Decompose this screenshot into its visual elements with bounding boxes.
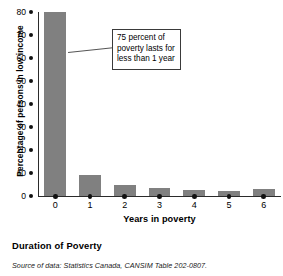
figure-container: Percentage of persons in low income 8070…	[0, 0, 283, 276]
y-tick-dot-icon	[29, 125, 33, 129]
x-tick-dot-icon	[122, 194, 127, 199]
x-tick-label: 6	[244, 200, 283, 210]
y-tick-dot-icon	[29, 102, 33, 106]
bar-slot	[253, 12, 275, 196]
annotation-line-3: less than 1 year	[117, 54, 176, 65]
x-tick-dot-icon	[88, 194, 93, 199]
y-tick-dot-icon	[29, 171, 33, 175]
annotation-line-2: poverty lasts for	[117, 44, 176, 55]
y-tick-label: 40	[0, 100, 26, 108]
y-tick-label: 0	[0, 192, 26, 200]
bar	[79, 175, 101, 196]
x-tick-dot-icon	[53, 194, 58, 199]
y-tick-label: 80	[0, 8, 26, 16]
y-tick-label: 70	[0, 31, 26, 39]
y-tick-label: 10	[0, 169, 26, 177]
y-tick-label: 60	[0, 54, 26, 62]
x-tick-dot-icon	[157, 194, 162, 199]
bar-slot	[79, 12, 101, 196]
y-tick-dot-icon	[29, 33, 33, 37]
y-tick-dot-icon	[29, 10, 33, 14]
y-tick-dot-icon	[29, 194, 33, 198]
y-tick-label: 20	[0, 146, 26, 154]
source-note: Source of data: Statistics Canada, CANSI…	[12, 261, 207, 270]
x-tick-dot-icon	[227, 194, 232, 199]
y-tick-label: 30	[0, 123, 26, 131]
x-axis-title: Years in poverty	[38, 214, 281, 224]
bar-slot	[44, 12, 66, 196]
x-tick-dot-icon	[261, 194, 266, 199]
y-tick-dot-icon	[29, 56, 33, 60]
y-tick-dot-icon	[29, 148, 33, 152]
figure-caption: Duration of Poverty	[12, 240, 102, 251]
annotation-line-1: 75 percent of	[117, 33, 176, 44]
bar-slot	[218, 12, 240, 196]
y-tick-label: 50	[0, 77, 26, 85]
annotation-callout: 75 percent of poverty lasts for less tha…	[112, 29, 181, 70]
x-tick-dot-icon	[192, 194, 197, 199]
y-tick-dot-icon	[29, 79, 33, 83]
bar	[44, 12, 66, 196]
bar-slot	[183, 12, 205, 196]
